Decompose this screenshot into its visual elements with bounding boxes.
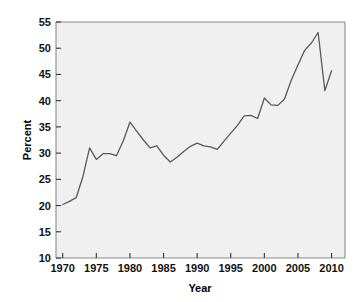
x-tick-label: 1990 <box>185 262 209 274</box>
x-tick-label: 2010 <box>319 262 343 274</box>
y-tick-label: 50 <box>39 42 51 54</box>
x-tick-label: 1970 <box>50 262 74 274</box>
line-chart: 197019751980198519901995200020052010 101… <box>0 0 363 302</box>
x-tick-label: 2005 <box>286 262 310 274</box>
y-tick-label: 10 <box>39 252 51 264</box>
y-axis-title: Percent <box>21 119 33 160</box>
x-tick-label: 1985 <box>151 262 175 274</box>
y-tick-label: 55 <box>39 16 51 28</box>
x-tick-label: 1975 <box>84 262 108 274</box>
x-axis-title: Year <box>188 282 212 294</box>
y-tick-label: 40 <box>39 95 51 107</box>
y-tick-label: 25 <box>39 173 51 185</box>
y-tick-label: 30 <box>39 147 51 159</box>
x-tick-label: 1980 <box>118 262 142 274</box>
y-tick-label: 20 <box>39 200 51 212</box>
x-axis-tick-labels: 197019751980198519901995200020052010 <box>50 262 343 274</box>
chart-page: 197019751980198519901995200020052010 101… <box>0 0 363 302</box>
y-axis-tick-labels: 10152025303540455055 <box>39 16 51 264</box>
y-tick-label: 35 <box>39 121 51 133</box>
x-tick-label: 2000 <box>252 262 276 274</box>
y-tick-label: 15 <box>39 226 51 238</box>
x-tick-label: 1995 <box>219 262 243 274</box>
y-tick-label: 45 <box>39 68 51 80</box>
